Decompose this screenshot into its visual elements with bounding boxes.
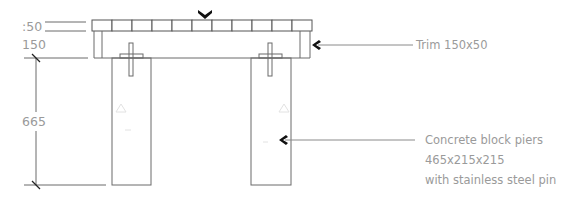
- chevron-down-icon: [198, 10, 212, 19]
- callout-piers-line-2: 465x215x215: [425, 153, 504, 167]
- steel-pin-left: [120, 43, 143, 76]
- callout-trim-label: Trim 150x50: [415, 38, 488, 52]
- pier-hatch: [116, 104, 289, 142]
- steel-pin-right: [259, 43, 282, 76]
- deck-boards: [92, 20, 312, 31]
- callout-trim: Trim 150x50: [312, 38, 488, 52]
- pier-left: [112, 58, 151, 185]
- callout-piers: Concrete block piers 465x215x215 with st…: [279, 133, 556, 187]
- dim-pier-height-label: 665: [22, 114, 46, 129]
- callout-piers-line-3: with stainless steel pin: [425, 173, 556, 187]
- deck-section-diagram: :50 150 665: [0, 0, 571, 199]
- pier-right: [251, 58, 291, 185]
- dim-frame-label: 150: [22, 37, 46, 52]
- callout-piers-line-1: Concrete block piers: [425, 133, 543, 147]
- dim-top-board-label: :50: [22, 19, 42, 34]
